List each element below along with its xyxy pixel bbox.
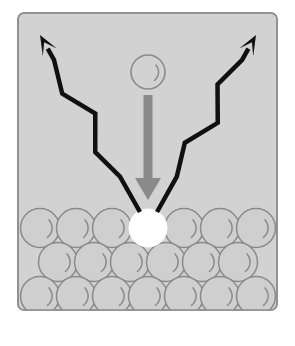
lattice-sphere xyxy=(93,209,132,248)
lattice-sphere xyxy=(39,243,78,282)
lattice-sphere xyxy=(219,243,258,282)
lattice-sphere xyxy=(111,243,150,282)
particle-impact-diagram xyxy=(0,0,295,346)
lattice-sphere xyxy=(165,209,204,248)
lattice-sphere xyxy=(183,243,222,282)
incident-particle xyxy=(131,55,165,89)
lattice-sphere xyxy=(57,209,96,248)
lattice-sphere xyxy=(21,209,60,248)
lattice-sphere xyxy=(147,243,186,282)
impact-sphere xyxy=(129,209,167,247)
lattice-sphere xyxy=(75,243,114,282)
lattice-sphere xyxy=(237,209,276,248)
lattice-sphere xyxy=(201,209,240,248)
impact-site xyxy=(129,209,167,247)
figure-root xyxy=(0,0,295,346)
